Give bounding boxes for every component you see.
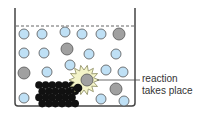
dissolved-particle xyxy=(110,83,122,95)
liquid-particle xyxy=(101,65,111,75)
label-line-2: takes place xyxy=(142,85,193,97)
reacting-particle xyxy=(81,74,93,86)
solid-particle xyxy=(52,100,60,108)
solid-particle xyxy=(65,100,73,108)
solid-particle xyxy=(45,100,53,108)
dissolved-particle xyxy=(113,28,125,40)
liquid-particle xyxy=(37,29,47,39)
liquid-particle xyxy=(42,67,52,77)
dissolved-particle xyxy=(18,67,30,79)
liquid-particle xyxy=(19,93,29,103)
liquid-particle xyxy=(118,67,128,77)
liquid-particle xyxy=(60,27,70,37)
solid-particle xyxy=(58,100,66,108)
liquid-particle xyxy=(19,48,29,58)
liquid-particle xyxy=(39,48,49,58)
liquid-particle xyxy=(65,60,75,70)
dissolved-particle xyxy=(61,43,73,55)
liquid-particle xyxy=(77,29,87,39)
solid-particle xyxy=(38,100,46,108)
liquid-particle xyxy=(96,94,106,104)
reaction-label: reaction takes place xyxy=(142,73,193,97)
liquid-particle xyxy=(111,49,121,59)
liquid-particle xyxy=(19,29,29,39)
label-line-1: reaction xyxy=(142,73,193,85)
detaching-solid-particle xyxy=(74,84,83,93)
solid-particle xyxy=(71,100,79,108)
liquid-particle xyxy=(84,49,94,59)
liquid-particle xyxy=(96,29,106,39)
liquid-particle xyxy=(119,96,129,106)
